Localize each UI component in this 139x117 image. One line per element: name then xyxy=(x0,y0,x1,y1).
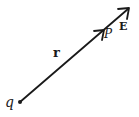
charge-label: q xyxy=(5,95,14,109)
diagram-graphics xyxy=(0,0,139,117)
field-diagram: q r P E xyxy=(0,0,139,117)
point-label: P xyxy=(104,28,112,40)
position-vector-label: r xyxy=(53,46,60,59)
field-label: E xyxy=(119,21,127,32)
charge-dot xyxy=(18,100,22,104)
vector-line xyxy=(20,9,128,102)
